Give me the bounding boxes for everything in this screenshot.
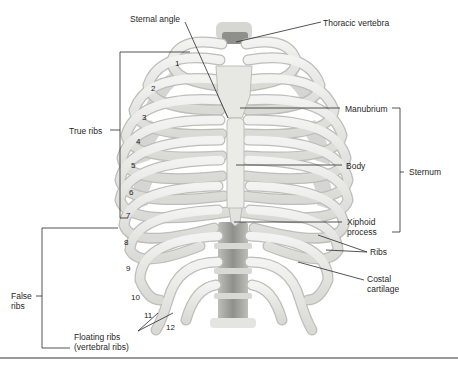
rib-number-10: 10 <box>131 293 140 302</box>
rib-number-9: 9 <box>126 264 130 273</box>
rib-number-5: 5 <box>131 161 135 170</box>
ribcage-illustration <box>0 0 458 367</box>
bottom-divider <box>0 357 458 359</box>
label-ribs: Ribs <box>370 247 387 257</box>
rib-number-8: 8 <box>124 238 128 247</box>
label-costal-line2: cartilage <box>367 284 399 294</box>
label-body: Body <box>346 161 365 171</box>
label-floating-ribs-line2: (vertebral ribs) <box>74 342 129 352</box>
label-true-ribs: True ribs <box>69 126 102 136</box>
rib-number-4: 4 <box>136 137 140 146</box>
thoracic-cage-diagram: Sternal angle Thoracic vertebra Manubriu… <box>0 0 458 367</box>
label-xiphoid-line1: Xiphoid <box>347 217 375 227</box>
sternum <box>216 66 252 226</box>
label-sternal-angle: Sternal angle <box>130 14 180 24</box>
label-false-ribs-line1: False <box>11 291 32 301</box>
label-costal-line1: Costal <box>367 274 391 284</box>
label-floating-ribs-line1: Floating ribs <box>74 332 120 342</box>
rib-number-12: 12 <box>166 323 175 332</box>
label-false-ribs-line2: ribs <box>11 301 25 311</box>
rib-number-7: 7 <box>126 211 130 220</box>
label-sternum: Sternum <box>409 167 441 177</box>
rib-number-11: 11 <box>144 311 152 320</box>
rib-number-6: 6 <box>129 188 133 197</box>
label-manubrium: Manubrium <box>345 104 388 114</box>
rib-number-3: 3 <box>142 113 146 122</box>
rib-number-2: 2 <box>151 84 155 93</box>
rib-number-1: 1 <box>175 59 179 68</box>
label-xiphoid-line2: process <box>347 227 377 237</box>
label-thoracic-vertebra: Thoracic vertebra <box>323 18 389 28</box>
